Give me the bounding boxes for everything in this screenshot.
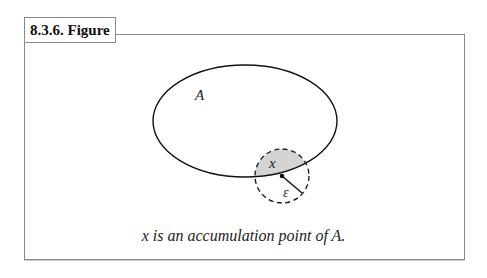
point-x-dot [280,174,285,179]
point-x-label: x [268,155,276,171]
figure-title-text: 8.3.6. Figure [30,22,110,39]
set-a-label: A [194,87,205,103]
set-a-boundary [153,65,337,177]
figure-title: 8.3.6. Figure [24,17,116,43]
figure-caption: x is an accumulation point of A. [0,227,487,245]
epsilon-label: ε [283,185,289,200]
